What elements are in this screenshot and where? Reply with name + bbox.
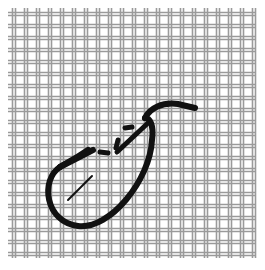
illustration — [0, 0, 265, 270]
mesh-drawing — [0, 0, 265, 270]
wire-mesh-grid — [8, 8, 256, 258]
